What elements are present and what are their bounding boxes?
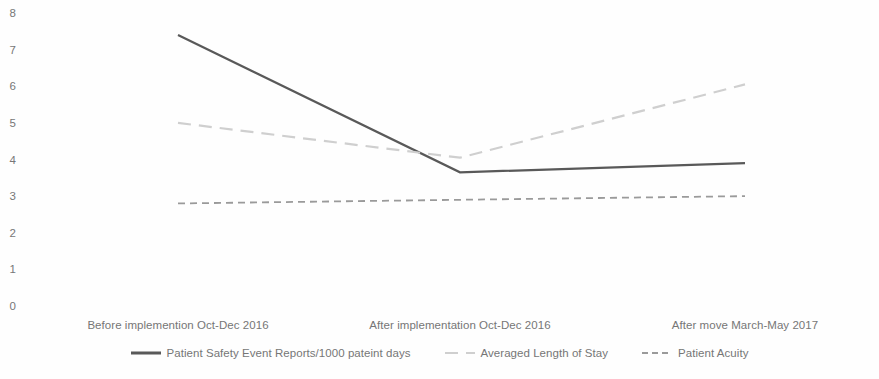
line-chart: 876543210 Before implemention Oct-Dec 20… [0, 0, 879, 379]
series-line [178, 35, 745, 172]
plot-area [0, 0, 879, 315]
legend-swatch-icon [445, 348, 475, 358]
legend-label: Patient Acuity [678, 347, 748, 359]
series-line [178, 84, 745, 157]
legend-label: Patient Safety Event Reports/1000 patein… [167, 347, 411, 359]
legend-swatch-icon [642, 348, 672, 358]
x-tick-label: Before implemention Oct-Dec 2016 [87, 318, 268, 332]
legend-item[interactable]: Patient Safety Event Reports/1000 patein… [131, 347, 411, 359]
series-line [178, 196, 745, 203]
x-axis: Before implemention Oct-Dec 2016After im… [0, 314, 879, 340]
legend-swatch-icon [131, 348, 161, 358]
legend-label: Averaged Length of Stay [481, 347, 609, 359]
chart-legend: Patient Safety Event Reports/1000 patein… [0, 343, 879, 363]
legend-item[interactable]: Patient Acuity [642, 347, 748, 359]
legend-item[interactable]: Averaged Length of Stay [445, 347, 609, 359]
series-canvas [0, 0, 879, 315]
x-tick-label: After move March-May 2017 [672, 318, 818, 332]
x-tick-label: After implementation Oct-Dec 2016 [369, 318, 550, 332]
